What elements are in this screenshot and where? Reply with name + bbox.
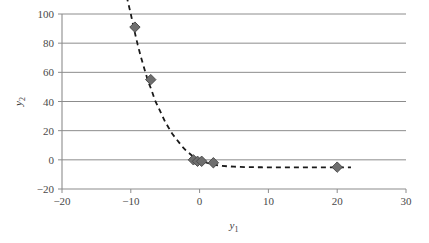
x-tick-label: −20 xyxy=(53,195,71,207)
y-tick-label: 80 xyxy=(43,37,55,49)
x-tick-label: 10 xyxy=(263,195,275,207)
y-tick-label: 100 xyxy=(38,8,55,20)
scatter-chart: −20020406080100 −20−100102030 y1 y2 xyxy=(0,0,429,243)
y-tick-label: 20 xyxy=(43,125,55,137)
chart-figure: −20020406080100 −20−100102030 y1 y2 xyxy=(0,0,429,243)
y-tick-label: 60 xyxy=(43,66,55,78)
x-tick-label: 0 xyxy=(197,195,203,207)
y-tick-label: 0 xyxy=(49,154,55,166)
y-tick-label: −20 xyxy=(37,183,55,195)
y-axis-title-subscript: 2 xyxy=(18,97,27,101)
x-tick-label: 30 xyxy=(401,195,413,207)
x-tick-label: −10 xyxy=(122,195,140,207)
x-tick-label: 20 xyxy=(332,195,344,207)
y-tick-label: 40 xyxy=(43,96,55,108)
x-axis-title-subscript: 1 xyxy=(234,225,238,234)
